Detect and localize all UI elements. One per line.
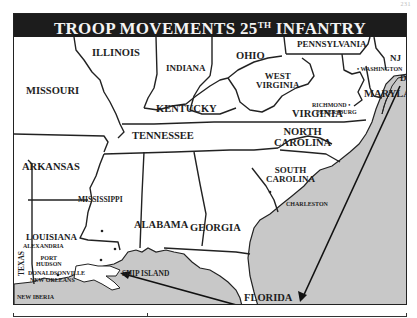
label-richmond: RICHMOND • xyxy=(312,102,350,108)
label-charleston: CHARLESTON xyxy=(286,201,328,207)
label-ohio: OHIO xyxy=(236,51,265,62)
title-suffix: INFANTRY xyxy=(271,19,366,38)
label-florida: FLORIDA xyxy=(244,293,292,304)
rule-tick-left xyxy=(13,313,14,317)
label-north-carolina: NORTH CAROLINA xyxy=(274,127,331,148)
label-new-orleans: NEW ORLEANS xyxy=(30,277,75,283)
label-ship-island: SHIP ISLAND xyxy=(122,270,169,278)
label-port-hudson-line2: HUDSON xyxy=(36,261,62,267)
label-maryland: MARYLAND xyxy=(364,89,407,100)
label-west-virginia-line2: VIRGINIA xyxy=(256,81,300,90)
label-west-virginia: WEST VIRGINIA xyxy=(256,72,300,90)
label-alexandria: ALEXANDRIA xyxy=(23,243,64,249)
label-arkansas: ARKANSAS xyxy=(22,162,80,173)
label-alabama: ALABAMA xyxy=(134,220,188,231)
page-number: 231 xyxy=(401,1,412,7)
label-tennessee: TENNESSEE xyxy=(132,131,194,142)
label-louisiana: LOUISIANA xyxy=(26,233,77,242)
label-mississippi: MISSISSIPPI xyxy=(78,196,123,204)
label-north-carolina-line2: CAROLINA xyxy=(274,138,331,149)
label-missouri: MISSOURI xyxy=(26,86,79,97)
label-illinois: ILLINOIS xyxy=(92,48,140,59)
troop-movement-map: TROOP MOVEMENTS 25TH INFANTRY xyxy=(13,13,407,305)
label-kentucky: KENTUCKY xyxy=(156,104,217,115)
label-new-iberia: NEW IBERIA xyxy=(17,294,54,300)
label-texas: TEXAS xyxy=(18,251,26,276)
label-indiana: INDIANA xyxy=(166,64,206,73)
label-pennsylvania: PENNSYLVANIA xyxy=(297,40,367,49)
label-georgia: GEORGIA xyxy=(190,223,241,234)
label-washington: • WASHINGTON xyxy=(357,66,402,72)
label-nj: NJ xyxy=(390,54,401,63)
map-outline xyxy=(14,14,407,305)
title-superscript: TH xyxy=(258,20,272,30)
label-north-carolina-line1: NORTH xyxy=(274,127,331,138)
title-main: TROOP MOVEMENTS 25 xyxy=(54,19,258,38)
label-south-carolina: SOUTH CAROLINA xyxy=(266,166,315,184)
map-title: TROOP MOVEMENTS 25TH INFANTRY xyxy=(14,14,406,37)
rule-tick-right xyxy=(406,313,407,317)
label-donaldsonville: DONALDSONVILLE xyxy=(28,270,85,276)
label-south-carolina-line2: CAROLINA xyxy=(266,175,315,184)
bottom-rule xyxy=(13,316,407,317)
label-petersburg: PETERSBURG xyxy=(316,109,357,115)
label-del: DEL xyxy=(400,74,407,83)
label-port-hudson: PORT HUDSON xyxy=(36,255,62,267)
rule-tick-middle xyxy=(147,313,148,317)
